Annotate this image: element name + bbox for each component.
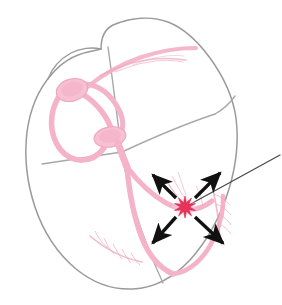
ectopic-focus bbox=[172, 194, 198, 220]
heart-conduction-figure: Cardiac conduction system with ectopic v… bbox=[0, 0, 282, 305]
heart-diagram-svg: Cardiac conduction system with ectopic v… bbox=[0, 0, 282, 305]
